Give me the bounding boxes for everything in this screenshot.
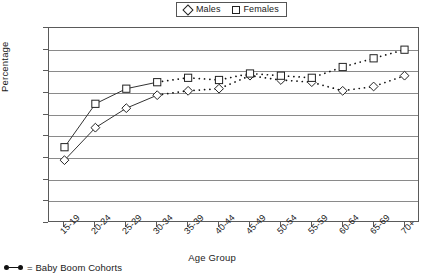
legend-label-males: Males [196,5,221,14]
footnote-line-icon [9,267,18,269]
data-point-square [277,72,284,79]
legend-entry-females: Females [232,5,279,14]
data-point-square [123,85,130,92]
data-point-square [215,76,222,83]
data-point-square [339,63,346,70]
data-point-diamond [184,86,193,95]
legend-entry-males: Males [184,5,221,14]
data-point-square [401,46,408,53]
data-point-diamond [153,91,162,100]
footnote-dot-right-icon [18,265,23,270]
y-axis-title: Percentage [0,41,10,92]
data-point-square [370,55,377,62]
square-icon [232,6,240,14]
data-point-diamond [400,71,409,80]
data-point-square [246,70,253,77]
y-tick-mark [43,222,48,223]
data-point-diamond [215,84,224,93]
data-point-square [154,79,161,86]
chart-legend: Males Females [176,2,287,17]
footnote-label: = Baby Boom Cohorts [27,262,122,273]
data-point-square [185,74,192,81]
data-point-square [308,74,315,81]
diamond-icon [182,4,193,15]
legend-label-females: Females [244,5,279,14]
data-point-diamond [369,82,378,91]
chart-container: Males Females Percentage 908070605040302… [0,0,424,276]
plot-area [48,27,419,222]
data-point-square [92,100,99,107]
footnote-baby-boom: = Baby Boom Cohorts [4,262,122,273]
data-series-layer [49,28,420,223]
data-point-diamond [122,104,131,113]
data-point-diamond [338,86,347,95]
series-line-solid-females [65,82,158,147]
data-point-square [61,144,68,151]
